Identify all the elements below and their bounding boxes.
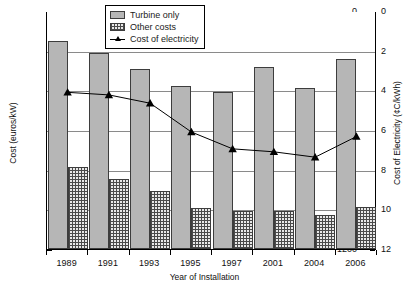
legend-item-cost-of-electricity: Cost of electricity [110, 33, 199, 45]
x-axis-tick-label: 1993 [129, 258, 169, 268]
x-axis-tick-label: 2001 [253, 258, 293, 268]
y-axis-right-tick-label: 4 [381, 85, 409, 95]
x-axis-tick [46, 250, 47, 255]
legend-label-turbine-only: Turbine only [130, 9, 179, 21]
y-axis-right-tick-label: 8 [381, 165, 409, 175]
y-axis-left-title: Cost (euros/kW) [8, 73, 18, 193]
cost-of-electricity-marker [63, 88, 71, 95]
cost-of-electricity-marker [228, 145, 236, 152]
x-axis-tick-label: 1995 [170, 258, 210, 268]
plot-area [46, 12, 376, 250]
x-axis-tick [252, 250, 253, 255]
y-axis-right-tick-label: 2 [381, 46, 409, 56]
chart-legend: Turbine only Other costs Cost of electri… [105, 5, 205, 49]
y-axis-right-tick [370, 250, 375, 251]
x-axis-tick [211, 250, 212, 255]
x-axis-tick-label: 2004 [294, 258, 334, 268]
cost-of-electricity-marker [187, 128, 195, 135]
x-axis-tick [129, 250, 130, 255]
chart-figure: Cost (euros/kW) Cost of Electricity (¢C/… [0, 0, 409, 290]
x-axis-tick [170, 250, 171, 255]
x-axis-tick [294, 250, 295, 255]
legend-item-turbine-only: Turbine only [110, 9, 199, 21]
x-axis-tick [87, 250, 88, 255]
y-axis-right-tick-label: 10 [381, 204, 409, 214]
y-axis-right-tick-label: 0 [381, 6, 409, 16]
x-axis-title: Year of Installation [0, 272, 409, 282]
x-axis-tick-label: 1991 [88, 258, 128, 268]
x-axis-tick-label: 2006 [335, 258, 375, 268]
cost-of-electricity-line [68, 92, 357, 157]
x-axis-tick-label: 1997 [212, 258, 252, 268]
y-axis-right-tick-label: 12 [381, 244, 409, 254]
legend-label-other-costs: Other costs [130, 21, 176, 33]
y-axis-left-tick [47, 250, 52, 251]
legend-label-cost-of-electricity: Cost of electricity [130, 33, 199, 45]
x-axis-tick [335, 250, 336, 255]
legend-item-other-costs: Other costs [110, 21, 199, 33]
x-axis-tick-label: 1989 [47, 258, 87, 268]
x-axis-tick [376, 250, 377, 255]
cost-of-electricity-marker [352, 132, 360, 139]
line-series-layer [47, 12, 377, 250]
legend-swatch-turbine-icon [110, 11, 125, 19]
legend-swatch-other-icon [110, 23, 125, 31]
y-axis-right-tick-label: 6 [381, 125, 409, 135]
legend-swatch-line-marker-icon [110, 35, 125, 43]
